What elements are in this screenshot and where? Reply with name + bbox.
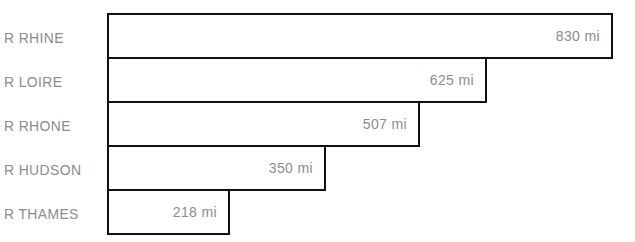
category-label-r-loire: R LOIRE (4, 75, 93, 90)
bar-chart: R RHINE R LOIRE R RHONE R HUDSON R THAME… (0, 0, 635, 242)
category-axis-labels: R RHINE R LOIRE R RHONE R HUDSON R THAME… (0, 0, 103, 242)
category-label-r-rhone: R RHONE (4, 119, 93, 134)
bar-r-thames[interactable]: 218 mi (107, 189, 230, 235)
bar-r-hudson[interactable]: 350 mi (107, 145, 326, 191)
bar-r-loire[interactable]: 625 mi (107, 57, 487, 103)
bar-value-r-hudson: 350 mi (269, 161, 324, 176)
category-label-r-rhine: R RHINE (4, 31, 93, 46)
bar-r-rhine[interactable]: 830 mi (107, 13, 613, 59)
category-label-r-hudson: R HUDSON (4, 163, 93, 178)
plot-area: 830 mi 625 mi 507 mi 350 mi 218 mi (107, 13, 627, 231)
bar-value-r-rhine: 830 mi (556, 29, 611, 44)
bar-value-r-loire: 625 mi (430, 73, 485, 88)
bar-r-rhone[interactable]: 507 mi (107, 101, 420, 147)
bar-value-r-rhone: 507 mi (363, 117, 418, 132)
category-label-r-thames: R THAMES (4, 207, 93, 222)
bar-value-r-thames: 218 mi (173, 205, 228, 220)
